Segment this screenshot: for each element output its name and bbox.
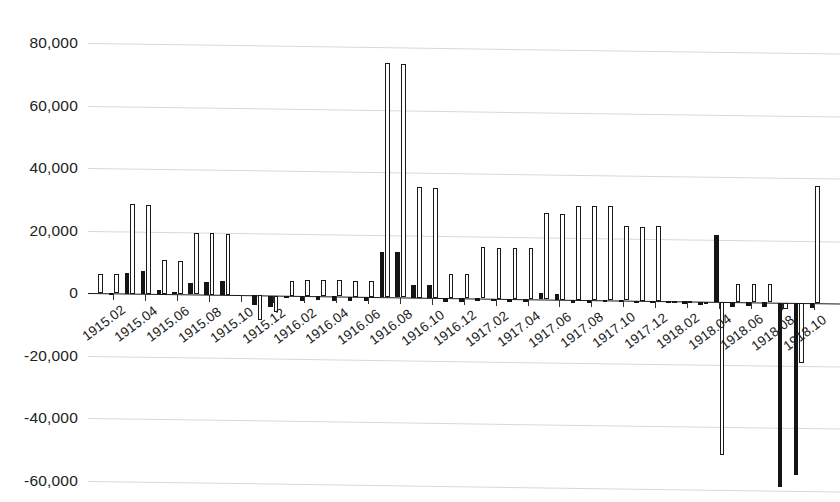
gridline: [88, 106, 840, 118]
bar-series-white-1915.02: [114, 274, 119, 293]
bar-series-white-1918.07: [768, 284, 773, 302]
x-axis-tick-mark: [273, 296, 274, 303]
bar-series-black-1915.07: [188, 283, 193, 295]
bar-series-black-1917.11: [634, 301, 639, 303]
bar-series-white-1915.01: [98, 274, 103, 293]
bar-series-white-1915.07: [194, 233, 199, 294]
gridline: [88, 481, 840, 493]
gridline: [88, 418, 840, 430]
bar-series-black-1916.03: [316, 296, 321, 300]
bar-series-black-1916.01: [284, 296, 289, 299]
y-axis: 80,00060,00040,00020,0000-20,000-40,000-…: [0, 0, 78, 502]
x-axis-tick-mark: [719, 302, 720, 309]
bar-series-white-1918.05: [736, 284, 741, 302]
bar-series-black-1915.08: [204, 282, 209, 295]
bar-series-white-1915.11: [258, 295, 263, 319]
bar-series-white-1918.08: [783, 303, 788, 309]
bar-series-black-1916.11: [443, 298, 448, 302]
plot-area: 1915.021915.041915.061915.081915.101915.…: [88, 0, 840, 502]
bar-series-white-1917.11: [640, 227, 645, 301]
x-axis-tick-mark: [241, 295, 242, 302]
x-axis-tick-mark: [559, 300, 560, 307]
bar-series-black-1918.05: [730, 302, 735, 307]
y-axis-tick-label: 20,000: [29, 222, 78, 240]
bar-series-white-1915.06: [178, 261, 183, 294]
bar-series-black-1915.05: [157, 290, 162, 294]
bar-series-black-1916.05: [348, 297, 353, 301]
bar-series-white-1916.05: [353, 281, 358, 297]
bar-series-white-1917.10: [624, 226, 629, 300]
y-axis-tick-label: 80,000: [29, 34, 78, 52]
bar-series-white-1918.01: [672, 301, 677, 303]
x-axis-tick-mark: [496, 299, 497, 306]
y-axis-tick-label: -20,000: [24, 347, 78, 365]
x-axis-tick-mark: [623, 300, 624, 307]
gridline: [88, 231, 840, 243]
bar-series-black-1916.07: [380, 252, 385, 297]
bar-series-black-1916.10: [427, 285, 432, 298]
bar-series-white-1916.03: [321, 280, 326, 296]
gridline: [88, 43, 840, 55]
y-axis-tick-label: 0: [69, 284, 78, 302]
x-axis-tick-mark: [432, 298, 433, 305]
x-axis-tick-mark: [751, 302, 752, 309]
x-axis-tick-mark: [814, 303, 815, 310]
bar-series-white-1915.04: [146, 205, 151, 294]
bar-series-white-1918.10: [815, 186, 820, 303]
bar-series-white-1916.11: [449, 274, 454, 298]
x-axis-tick-mark: [655, 301, 656, 308]
bar-series-black-1917.01: [475, 298, 480, 300]
y-axis-tick-label: -60,000: [24, 472, 78, 490]
x-axis-tick-mark: [336, 296, 337, 303]
bar-series-black-1918.03: [698, 302, 703, 305]
bar-series-white-1917.06: [560, 214, 565, 300]
x-axis-tick-mark: [591, 300, 592, 307]
bar-series-white-1917.08: [592, 206, 597, 300]
x-axis-tick-mark: [368, 297, 369, 304]
bar-series-black-1918.04: [714, 235, 719, 302]
bar-series-black-1917.03: [507, 299, 512, 302]
bar-series-black-1918.07: [762, 302, 767, 306]
bar-series-white-1918.02: [688, 301, 693, 303]
x-axis-tick-mark: [145, 294, 146, 301]
bar-series-white-1917.05: [544, 213, 549, 299]
y-axis-tick-label: -40,000: [24, 409, 78, 427]
bar-series-white-1917.02: [497, 248, 502, 299]
bar-series-white-1915.05: [162, 260, 167, 294]
bar-series-white-1918.03: [704, 302, 709, 304]
bar-series-black-1917.07: [571, 300, 576, 303]
x-axis-tick-mark: [209, 295, 210, 302]
x-axis-tick-mark: [782, 303, 783, 310]
y-axis-tick-label: 60,000: [29, 97, 78, 115]
bar-series-black-1916.09: [411, 285, 416, 298]
x-axis-tick-mark: [304, 296, 305, 303]
x-axis-tick-mark: [687, 301, 688, 308]
bar-series-black-1915.09: [220, 281, 225, 294]
bar-series-black-1915.11: [252, 295, 257, 305]
bar-series-black-1915.04: [141, 271, 146, 294]
gridline: [88, 356, 840, 368]
bar-series-white-1918.06: [752, 284, 757, 302]
bar-series-white-1916.06: [369, 281, 374, 297]
bar-series-black-1915.03: [125, 273, 130, 293]
bar-series-white-1916.12: [465, 274, 470, 298]
bar-series-white-1917.04: [529, 248, 534, 299]
bar-series-white-1917.03: [513, 248, 518, 299]
bar-series-black-1918.01: [666, 301, 671, 303]
bar-series-white-1916.08: [401, 64, 406, 297]
x-axis-tick-mark: [400, 297, 401, 304]
bar-series-white-1917.01: [481, 247, 486, 298]
chart-root: 80,00060,00040,00020,0000-20,000-40,000-…: [0, 0, 840, 502]
bar-series-white-1916.04: [337, 280, 342, 296]
x-axis-tick-mark: [177, 294, 178, 301]
x-axis-tick-mark: [528, 299, 529, 306]
bar-series-white-1917.12: [656, 226, 661, 300]
bar-series-white-1915.09: [226, 234, 231, 295]
bar-series-white-1916.02: [305, 280, 310, 296]
bar-series-white-1916.07: [385, 63, 390, 297]
bar-series-white-1917.09: [608, 206, 613, 300]
bar-series-black-1917.05: [539, 293, 544, 299]
bar-series-black-1916.08: [395, 252, 400, 297]
gridline: [88, 168, 840, 180]
bar-series-white-1916.01: [290, 281, 295, 295]
